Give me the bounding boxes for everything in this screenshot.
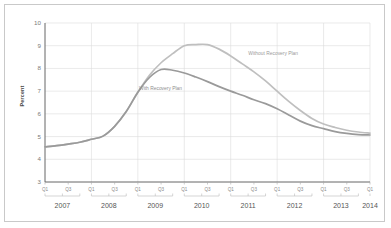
series-annotation-without-recovery-plan: Without Recovery Plan (248, 51, 298, 56)
series-line-without-recovery-plan (45, 44, 370, 147)
plot-area (5, 5, 386, 223)
chart-frame: Percent 345678910 Q1Q3Q1Q3Q1Q3Q1Q3Q1Q3Q1… (4, 4, 385, 222)
series-annotation-with-recovery-plan: With Recovery Plan (139, 86, 182, 91)
unemployment-projection-chart: Percent 345678910 Q1Q3Q1Q3Q1Q3Q1Q3Q1Q3Q1… (5, 5, 386, 223)
series-line-with-recovery-plan (45, 69, 370, 147)
